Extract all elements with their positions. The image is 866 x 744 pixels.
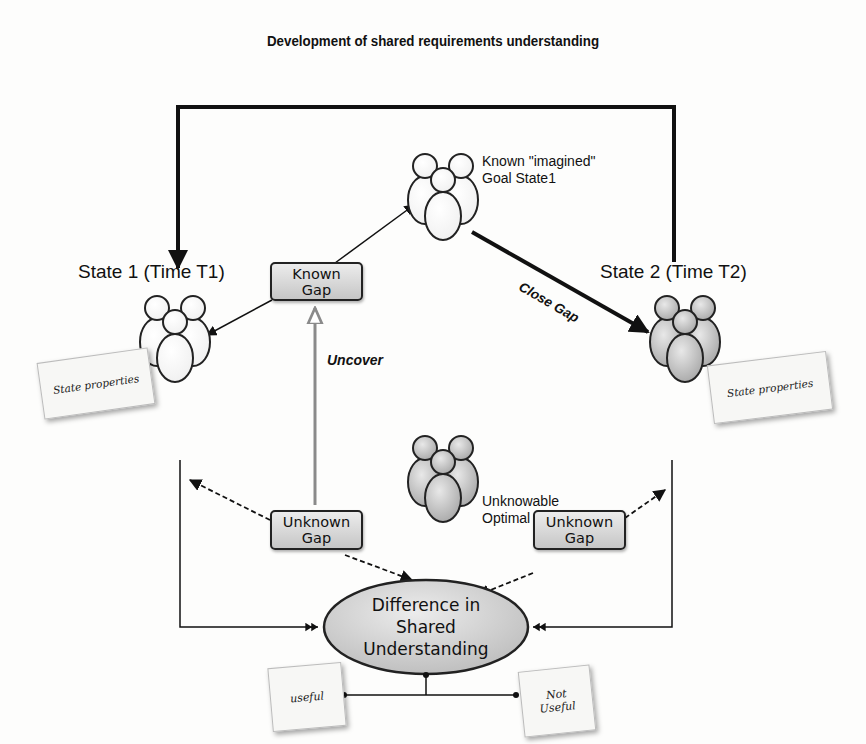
unknown-gap-right-box: Unknown Gap	[533, 510, 626, 550]
optimal-state-people-icon	[408, 436, 478, 522]
difference-label-line1: Difference in	[326, 594, 526, 616]
not-useful-line2: Useful	[539, 699, 576, 716]
state2-title: State 2 (Time T2)	[600, 261, 747, 283]
unknown-gap-left-line2: Gap	[272, 530, 361, 546]
uncover-label: Uncover	[327, 352, 383, 368]
knowngap-to-goal-arrow	[335, 205, 414, 263]
outcome-stem-dot	[423, 672, 429, 678]
difference-label: Difference in Shared Understanding	[326, 594, 526, 660]
optimal-state-label-line1: Unknowable	[482, 493, 575, 510]
unknown-gap-right-line1: Unknown	[535, 514, 624, 530]
unknowngap-left-to-state1-arrow	[190, 480, 270, 520]
state1-title: State 1 (Time T1)	[78, 261, 225, 283]
unknown-gap-left-box: Unknown Gap	[270, 510, 363, 550]
knowngap-to-state1-arrow	[207, 300, 272, 335]
goal-state-label-line1: Known "imagined"	[482, 153, 595, 170]
known-gap-line2: Gap	[272, 282, 361, 298]
goal-state-label: Known "imagined" Goal State1	[482, 153, 595, 187]
known-gap-box: Known Gap	[270, 262, 363, 301]
not-useful-note: Not Useful	[518, 664, 597, 737]
unknowngap-left-to-optimal-arrow	[345, 555, 412, 580]
unknowngap-right-to-state2-arrow	[625, 490, 665, 518]
goal-state-label-line2: Goal State1	[482, 170, 595, 187]
unknown-gap-right-line2: Gap	[535, 530, 624, 546]
difference-label-line2: Shared	[326, 616, 526, 638]
useful-note: useful	[267, 662, 346, 732]
diagram-title: Development of shared requirements under…	[35, 33, 832, 49]
difference-label-line3: Understanding	[326, 638, 526, 660]
known-gap-line1: Known	[272, 266, 361, 282]
goal-state-people-icon	[408, 154, 478, 240]
unknown-gap-left-line1: Unknown	[272, 514, 361, 530]
not-useful-dot	[513, 692, 519, 698]
